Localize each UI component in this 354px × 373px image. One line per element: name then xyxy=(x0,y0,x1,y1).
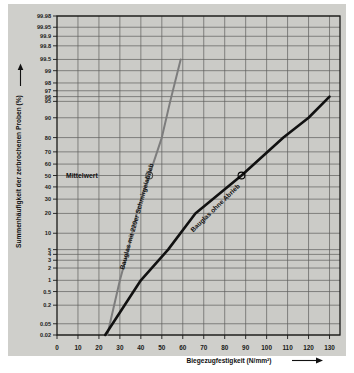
y-tick-label: 99.98 xyxy=(37,13,51,19)
y-tick-label: 99.8 xyxy=(40,43,51,49)
x-axis-title: Biegezugfestigkeit (N/mm²) xyxy=(187,357,272,365)
weibull-plot-svg: Mittelwert 99.9899.9599.999.899.59998979… xyxy=(0,0,354,373)
y-axis-title: Summenhäufigkeit der zerbrochenen Proben… xyxy=(15,95,23,248)
y-tick-label: 0.02 xyxy=(40,332,51,338)
y-tick-label: 90 xyxy=(45,115,51,121)
y-axis-title-group: Summenhäufigkeit der zerbrochenen Proben… xyxy=(15,64,23,249)
arrow-up-icon xyxy=(18,64,24,71)
y-tick-label: 1 xyxy=(48,277,51,283)
chart-figure: Mittelwert 99.9899.9599.999.899.59998979… xyxy=(0,0,354,373)
y-tick-label: 40 xyxy=(45,184,51,190)
y-tick-labels-group: 99.9899.9599.999.899.5999897969590807060… xyxy=(37,13,57,338)
x-tick-label: 130 xyxy=(324,344,335,351)
x-tick-labels-group: 0102030405060708090100110120130 xyxy=(55,335,335,351)
y-tick-label: 80 xyxy=(45,135,51,141)
x-axis-title-group: Biegezugfestigkeit (N/mm²) xyxy=(187,357,324,365)
x-tick-label: 100 xyxy=(261,344,272,351)
x-tick-label: 20 xyxy=(95,344,103,351)
y-tick-label: 60 xyxy=(45,161,51,167)
y-tick-label: 30 xyxy=(45,196,51,202)
x-tick-label: 90 xyxy=(242,344,250,351)
x-tick-label: 80 xyxy=(221,344,229,351)
x-tick-label: 10 xyxy=(74,344,82,351)
y-tick-label: 99.9 xyxy=(40,33,51,39)
y-tick-label: 2 xyxy=(48,265,51,271)
x-tick-label: 50 xyxy=(158,344,166,351)
mean-line-label: Mittelwert xyxy=(66,172,98,179)
y-tick-label: 98 xyxy=(45,80,51,86)
y-tick-label: 10 xyxy=(45,230,51,236)
y-tick-label: 3 xyxy=(48,257,51,263)
y-tick-label: 20 xyxy=(45,210,51,216)
x-tick-label: 120 xyxy=(303,344,314,351)
arrow-right-icon xyxy=(316,358,323,364)
x-tick-label: 0 xyxy=(55,344,59,351)
y-tick-label: 70 xyxy=(45,149,51,155)
chart-canvas: Mittelwert 99.9899.9599.999.899.59998979… xyxy=(0,0,354,373)
x-tick-label: 70 xyxy=(200,344,208,351)
x-tick-label: 40 xyxy=(137,344,145,351)
y-tick-label: 0.05 xyxy=(40,321,51,327)
x-tick-label: 30 xyxy=(116,344,124,351)
gridlines-group xyxy=(57,16,340,335)
y-tick-label: 50 xyxy=(45,173,51,179)
y-tick-label: 0.2 xyxy=(43,302,51,308)
y-tick-label: 99.95 xyxy=(37,24,51,30)
y-tick-label: 99.5 xyxy=(40,56,51,62)
y-tick-label: 99 xyxy=(45,68,51,74)
y-tick-label: 0.5 xyxy=(43,289,51,295)
y-tick-label: 95 xyxy=(45,98,51,104)
mean-reference: Mittelwert xyxy=(66,172,98,179)
x-tick-label: 60 xyxy=(179,344,187,351)
x-tick-label: 110 xyxy=(282,344,293,351)
